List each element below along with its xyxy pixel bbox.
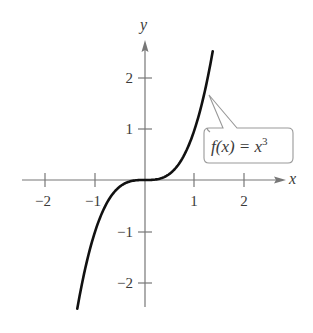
y-axis [142, 40, 149, 307]
cubic-function-graph: −2 −1 1 2 2 1 −1 −2 x y f(x) = x3 [0, 0, 313, 333]
x-axis-label: x [288, 170, 296, 187]
y-tick-label: −2 [117, 275, 133, 291]
y-axis-label: y [138, 16, 148, 34]
x-tick-label: −1 [85, 193, 101, 209]
y-tick-label: 1 [126, 121, 134, 137]
x-tick-label: 2 [240, 193, 248, 209]
function-label-text: f(x) = x [211, 137, 263, 156]
function-callout: f(x) = x3 [204, 95, 293, 163]
x-tick-label: −2 [35, 193, 51, 209]
x-tick-label: 1 [190, 193, 198, 209]
y-tick-label: 2 [126, 70, 134, 86]
function-label: f(x) = x3 [211, 135, 268, 156]
function-label-exponent: 3 [262, 135, 268, 147]
y-tick-label: −1 [117, 224, 133, 240]
